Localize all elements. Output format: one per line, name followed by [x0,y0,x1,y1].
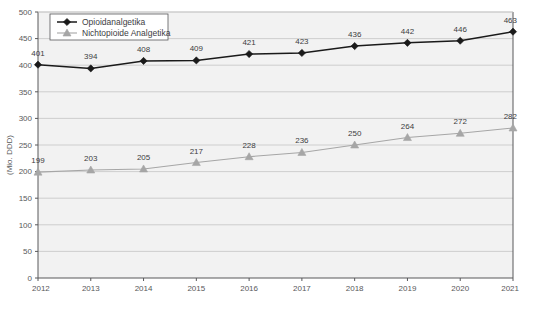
data-point-label: 228 [242,141,256,150]
x-axis-tick-labels: 2012201320142015201620172018201920202021 [32,284,520,293]
data-point-label: 408 [137,45,151,54]
x-axis-tick-label: 2013 [82,284,100,293]
y-axis-tick-label: 400 [19,61,33,70]
x-axis-tick-label: 2020 [451,284,469,293]
y-axis-tick-label: 250 [19,141,33,150]
legend-item-label: Nichtopioide Analgetika [82,28,171,38]
y-axis-tick-label: 200 [19,167,33,176]
data-point-label: 282 [504,112,518,121]
data-point-label: 272 [454,117,468,126]
data-point-label: 217 [190,147,204,156]
data-point-label: 205 [137,153,151,162]
data-point-label: 442 [401,27,415,36]
chart-legend: OpioidanalgetikaNichtopioide Analgetika [50,14,171,40]
data-point-label: 394 [84,52,98,61]
y-axis-tick-label: 100 [19,221,33,230]
data-point-label: 423 [295,37,309,46]
data-point-label: 436 [348,30,362,39]
x-axis-tick-label: 2016 [240,284,258,293]
data-point-label: 421 [242,38,256,47]
data-point-label: 463 [504,16,518,25]
legend-item-label: Opioidanalgetika [82,17,146,27]
data-point-label: 401 [31,49,45,58]
y-axis-tick-label: 350 [19,88,33,97]
data-point-label: 199 [31,156,45,165]
data-point-label: 203 [84,154,98,163]
y-axis-tick-label: 300 [19,114,33,123]
x-axis-tick-label: 2014 [135,284,153,293]
x-axis-tick-label: 2017 [293,284,311,293]
data-point-label: 264 [401,122,415,131]
y-axis-tick-label: 500 [19,8,33,17]
line-chart: 050100150200250300350400450500 201220132… [0,0,540,309]
chart-container: 050100150200250300350400450500 201220132… [0,0,540,309]
data-point-label: 409 [190,44,204,53]
x-axis-tick-label: 2021 [501,284,519,293]
x-axis-tick-label: 2012 [32,284,50,293]
x-axis-tick-label: 2015 [187,284,205,293]
y-axis-tick-label: 150 [19,194,33,203]
data-point-label: 236 [295,136,309,145]
data-point-label: 250 [348,129,362,138]
y-axis-tick-label: 50 [23,247,32,256]
x-axis-tick-label: 2019 [399,284,417,293]
y-axis-tick-label: 450 [19,34,33,43]
data-point-label: 446 [454,25,468,34]
y-axis-title: (Mio. DDD) [5,135,14,175]
y-axis-tick-label: 0 [28,274,33,283]
x-axis-tick-label: 2018 [346,284,364,293]
